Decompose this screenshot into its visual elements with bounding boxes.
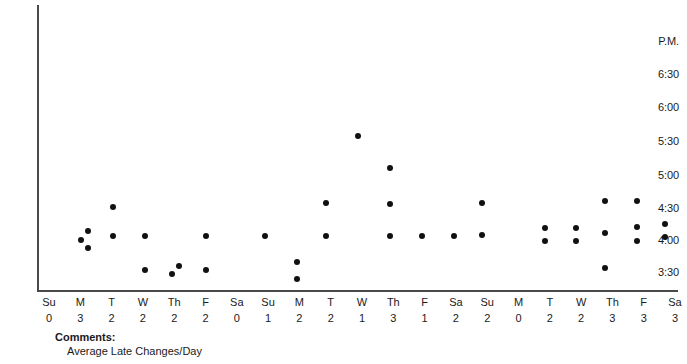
y-axis-tick-label-500: 5:00 (646, 170, 679, 181)
data-point (387, 165, 393, 171)
y-axis-header-label: P.M. (646, 36, 679, 47)
data-point (451, 233, 457, 239)
data-point (176, 263, 182, 269)
data-point (602, 265, 608, 271)
y-axis-tick-label-600: 6:00 (646, 102, 679, 113)
y-axis-tick-label-330: 3:30 (646, 267, 679, 278)
data-point (323, 233, 329, 239)
data-point (78, 237, 84, 243)
y-axis-tick-label-530: 5:30 (646, 136, 679, 147)
data-point (387, 201, 393, 207)
data-point (479, 200, 485, 206)
y-axis-line (37, 5, 39, 292)
comments-label: Comments: (55, 330, 202, 344)
data-point (602, 230, 608, 236)
data-point (542, 225, 548, 231)
x-axis-line (37, 290, 678, 292)
data-point (85, 245, 91, 251)
data-point (85, 228, 91, 234)
data-point (542, 238, 548, 244)
data-point (262, 233, 268, 239)
comments-text: Average Late Changes/Day (67, 344, 202, 358)
data-point (355, 133, 361, 139)
data-point (479, 232, 485, 238)
data-point (662, 221, 668, 227)
y-axis-tick-label-630: 6:30 (646, 69, 679, 80)
data-point (419, 233, 425, 239)
data-point (294, 259, 300, 265)
data-point (203, 233, 209, 239)
data-point (602, 198, 608, 204)
x-axis-day-label: Sa (655, 296, 687, 309)
comments-block: Comments: Average Late Changes/Day (55, 330, 202, 358)
x-axis-tick-20: Sa3 (655, 296, 687, 325)
x-axis-count-label: 3 (655, 312, 687, 325)
data-point (203, 267, 209, 273)
data-point (387, 233, 393, 239)
data-point (323, 200, 329, 206)
data-point (573, 225, 579, 231)
data-point (634, 238, 640, 244)
data-point (662, 234, 668, 240)
y-axis-tick-label-430: 4:30 (646, 203, 679, 214)
data-point (573, 238, 579, 244)
data-point (634, 224, 640, 230)
data-point (110, 204, 116, 210)
data-point (294, 276, 300, 282)
data-point (142, 233, 148, 239)
data-point (169, 271, 175, 277)
data-point (142, 267, 148, 273)
data-point (110, 233, 116, 239)
data-point (634, 198, 640, 204)
